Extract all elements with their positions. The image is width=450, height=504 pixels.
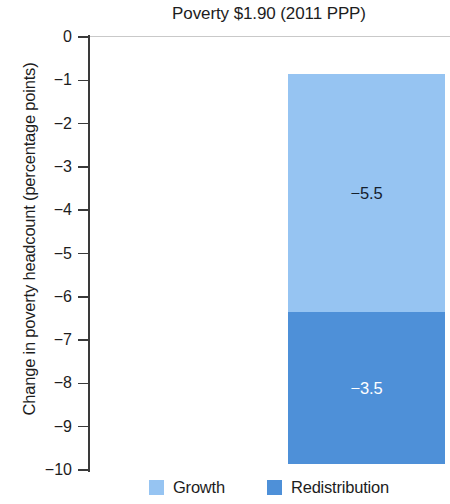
chart-container: Poverty $1.90 (2011 PPP) Change in pover… [0,0,450,504]
y-tick-label: −1 [12,72,72,88]
y-tick-label: −9 [12,419,72,435]
stacked-bar: −5.5 −3.5 [288,74,445,464]
y-tick-label: −8 [12,375,72,391]
y-tick-label: −4 [12,202,72,218]
bar-segment-growth[interactable]: −5.5 [288,74,445,312]
y-tick-label: 0 [12,29,72,45]
legend-swatch-redistribution [267,480,282,495]
y-tick-label: −3 [12,159,72,175]
chart-legend: Growth Redistribution [88,478,450,496]
legend-item-growth[interactable]: Growth [149,478,225,496]
plot-area: −5.5 −3.5 [88,37,450,470]
bar-segment-redistribution[interactable]: −3.5 [288,312,445,464]
y-tick-label: −10 [12,462,72,478]
legend-item-redistribution[interactable]: Redistribution [267,478,389,496]
legend-label-growth: Growth [173,478,225,496]
bar-value-redistribution: −3.5 [351,379,383,397]
legend-label-redistribution: Redistribution [291,478,389,496]
y-tick-label: −7 [12,332,72,348]
y-tick-label: −6 [12,289,72,305]
y-tick-label: −5 [12,246,72,262]
legend-swatch-growth [149,480,164,495]
y-tick-label: −2 [12,116,72,132]
chart-title: Poverty $1.90 (2011 PPP) [88,4,450,24]
bar-value-growth: −5.5 [351,184,383,202]
